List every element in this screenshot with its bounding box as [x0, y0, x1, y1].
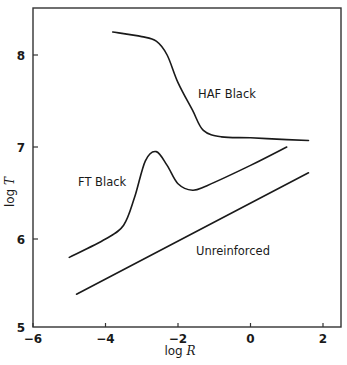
curve-label-haf-black: HAF Black [198, 87, 256, 101]
curves [69, 32, 308, 294]
y-tick-label: 8 [17, 49, 25, 63]
y-tick-label: 6 [17, 233, 25, 247]
curve-label-unreinforced: Unreinforced [196, 244, 270, 258]
y-axis-label: log T [3, 176, 17, 207]
x-tick-label: 2 [319, 332, 327, 346]
x-tick-label: −6 [24, 332, 42, 346]
curve-label-ft-black: FT Black [78, 175, 127, 189]
x-axis-label: log R [164, 344, 195, 358]
axis-ticks [33, 55, 323, 327]
x-tick-label: 0 [246, 332, 254, 346]
y-tick-label: 5 [17, 321, 25, 335]
plot-frame [33, 8, 341, 327]
x-tick-label: −4 [96, 332, 114, 346]
y-tick-label: 7 [17, 141, 25, 155]
tick-labels: −6−4−2025678 [17, 49, 328, 346]
chart: −6−4−2025678 log R log T HAF Black FT Bl… [0, 0, 347, 365]
